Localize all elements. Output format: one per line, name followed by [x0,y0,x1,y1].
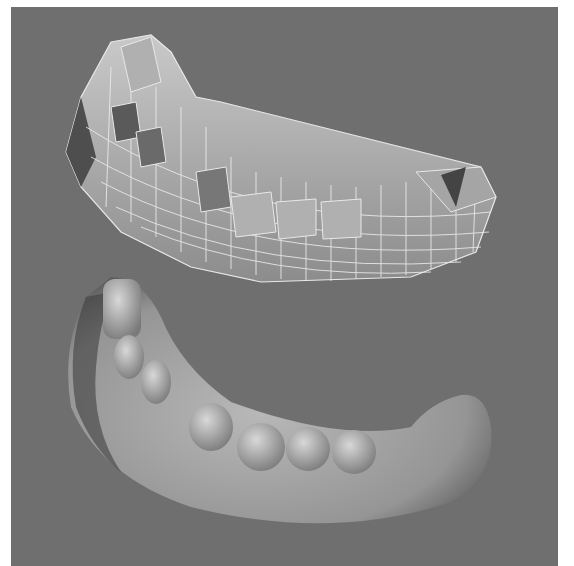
render-panel [11,7,558,566]
render-illustration [11,7,558,566]
wireframe-jaw-model [66,35,496,282]
smooth-jaw-model [68,277,491,523]
